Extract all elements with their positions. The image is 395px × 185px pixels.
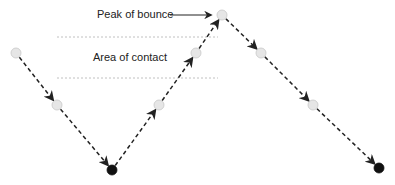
ball-position [11, 48, 21, 58]
ball-position [154, 100, 164, 110]
ball-contact-point [107, 165, 117, 175]
ball-position [308, 100, 318, 110]
ball-positions [11, 10, 384, 175]
peak-label: Peak of bounce [97, 8, 173, 20]
ball-position [191, 48, 201, 58]
trajectory-segment [61, 109, 108, 165]
trajectory-segment [115, 110, 155, 165]
ball-contact-point [374, 163, 384, 173]
trajectory-segment [265, 57, 309, 101]
trajectory-segment [317, 109, 374, 164]
ball-position [217, 10, 227, 20]
contact-label: Area of contact [93, 51, 167, 63]
trajectory-segment [19, 57, 53, 100]
ball-position [256, 48, 266, 58]
trajectory-segment [226, 19, 256, 49]
trajectory-segment [162, 58, 192, 100]
trajectory-segment [199, 20, 218, 48]
bounce-diagram [0, 0, 395, 185]
ball-position [52, 100, 62, 110]
trajectory-segments [19, 19, 374, 166]
